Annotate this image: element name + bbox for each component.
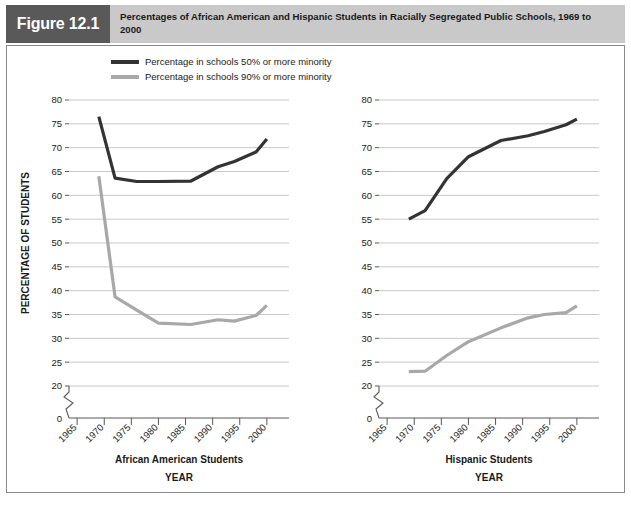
y-tick-label: 30 bbox=[361, 333, 372, 344]
y-axis-title: PERCENTAGE OF STUDENTS bbox=[20, 172, 31, 314]
panel-caption-right: Hispanic Students bbox=[445, 454, 533, 465]
figure-title: Percentages of African American and Hisp… bbox=[110, 5, 625, 43]
y-tick-label-zero: 0 bbox=[367, 413, 372, 424]
y-tick-label: 35 bbox=[361, 309, 372, 320]
legend-label-90-percent: Percentage in schools 90% or more minori… bbox=[145, 71, 331, 82]
y-tick-label: 25 bbox=[361, 357, 372, 368]
x-tick-label: 1970 bbox=[83, 422, 106, 445]
y-tick-label: 70 bbox=[361, 142, 372, 153]
x-tick-label: 1975 bbox=[110, 422, 133, 445]
y-tick-label: 20 bbox=[361, 380, 372, 391]
chart-svg: 2025303540455055606570758001965197019751… bbox=[7, 88, 626, 488]
x-tick-label: 1990 bbox=[191, 422, 214, 445]
y-tick-label: 30 bbox=[51, 333, 62, 344]
legend-item-50-percent: Percentage in schools 50% or more minori… bbox=[111, 54, 331, 69]
x-tick-label: 1985 bbox=[474, 422, 497, 445]
y-tick-label: 75 bbox=[51, 118, 62, 129]
y-tick-label: 40 bbox=[361, 285, 372, 296]
legend-swatch-gray bbox=[111, 75, 139, 79]
x-tick-label: 1990 bbox=[501, 422, 524, 445]
chart-legend: Percentage in schools 50% or more minori… bbox=[111, 54, 331, 84]
figure-header: Figure 12.1 Percentages of African Ameri… bbox=[6, 5, 625, 43]
x-tick-label: 1985 bbox=[164, 422, 187, 445]
y-tick-label: 35 bbox=[51, 309, 62, 320]
legend-item-90-percent: Percentage in schools 90% or more minori… bbox=[111, 69, 331, 84]
x-tick-label: 1965 bbox=[366, 422, 389, 445]
x-tick-label: 2000 bbox=[246, 422, 269, 445]
y-tick-label: 60 bbox=[361, 190, 372, 201]
x-tick-label: 1995 bbox=[528, 422, 551, 445]
y-tick-label: 25 bbox=[51, 357, 62, 368]
y-tick-label: 80 bbox=[361, 94, 372, 105]
y-tick-label: 75 bbox=[361, 118, 372, 129]
y-tick-label: 65 bbox=[51, 166, 62, 177]
y-tick-label: 20 bbox=[51, 380, 62, 391]
y-tick-label: 50 bbox=[51, 237, 62, 248]
y-tick-label: 55 bbox=[361, 214, 372, 225]
y-tick-label: 55 bbox=[51, 214, 62, 225]
y-tick-label: 60 bbox=[51, 190, 62, 201]
x-axis-title-right: YEAR bbox=[475, 472, 504, 483]
figure-number-badge: Figure 12.1 bbox=[6, 5, 110, 43]
x-tick-label: 2000 bbox=[556, 422, 579, 445]
y-tick-label: 40 bbox=[51, 285, 62, 296]
legend-swatch-dark bbox=[111, 60, 139, 64]
x-tick-label: 1970 bbox=[393, 422, 416, 445]
y-tick-label-zero: 0 bbox=[57, 413, 62, 424]
y-tick-label: 65 bbox=[361, 166, 372, 177]
x-tick-label: 1975 bbox=[420, 422, 443, 445]
y-tick-label: 80 bbox=[51, 94, 62, 105]
y-tick-label: 70 bbox=[51, 142, 62, 153]
series-line-90-percent bbox=[99, 176, 267, 324]
series-line-50-percent bbox=[409, 119, 577, 219]
x-axis-title-left: YEAR bbox=[165, 472, 194, 483]
y-tick-label: 50 bbox=[361, 237, 372, 248]
legend-label-50-percent: Percentage in schools 50% or more minori… bbox=[145, 56, 331, 67]
chart-panel-right: 2025303540455055606570758001965197019751… bbox=[361, 94, 599, 483]
panel-caption-left: African American Students bbox=[115, 454, 243, 465]
x-tick-label: 1965 bbox=[56, 422, 79, 445]
chart-frame: Percentage in schools 50% or more minori… bbox=[6, 45, 625, 493]
chart-panel-left: 2025303540455055606570758001965197019751… bbox=[51, 94, 289, 483]
x-tick-label: 1980 bbox=[447, 422, 470, 445]
x-tick-label: 1980 bbox=[137, 422, 160, 445]
y-tick-label: 45 bbox=[361, 261, 372, 272]
x-tick-label: 1995 bbox=[218, 422, 241, 445]
figure-container: Figure 12.1 Percentages of African Ameri… bbox=[0, 5, 631, 493]
y-tick-label: 45 bbox=[51, 261, 62, 272]
chart-panels: 2025303540455055606570758001965197019751… bbox=[7, 88, 626, 488]
